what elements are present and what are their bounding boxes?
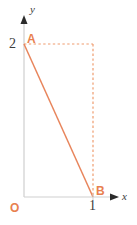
origin-label: O — [10, 202, 19, 214]
y-tick-label-2: 2 — [9, 37, 16, 51]
coordinate-diagram: 2 1 y x A B O — [0, 0, 137, 225]
y-axis-arrow-icon — [21, 15, 28, 24]
point-label-b: B — [96, 185, 105, 197]
diagram-canvas — [0, 0, 137, 225]
y-axis-label: y — [30, 4, 35, 15]
segment-ab — [24, 44, 93, 197]
point-label-a: A — [27, 33, 36, 45]
x-tick-label-1: 1 — [89, 199, 96, 213]
x-axis-label: x — [122, 191, 127, 202]
x-axis-arrow-icon — [110, 194, 119, 201]
